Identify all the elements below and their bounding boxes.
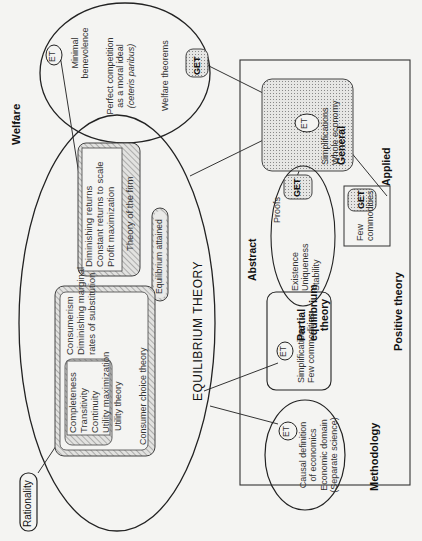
general-et-badge: ET (300, 118, 310, 129)
welfare-text-2: Perfect competition as a moral ideal (ce… (105, 21, 136, 131)
methodology-label: Methodology (368, 423, 381, 491)
welfare-label: Welfare (10, 104, 23, 145)
abstract-items: Existence Uniqueness Stability (290, 243, 321, 291)
diagram-stage: Welfare ET Minimal benevolence Perfect c… (0, 0, 422, 541)
equilibrium-attained: Equilibrium attained (155, 219, 165, 294)
welfare-et-badge: ET (48, 51, 58, 62)
partial-equilibrium-title: Partial equilibrium theory (296, 284, 331, 341)
applied-label: Applied (380, 148, 392, 187)
welfare-text-1: Minimal benevolence (70, 13, 91, 93)
general-equilibrium-title: General (336, 126, 347, 165)
equilibrium-theory-title: EQUILIBRIUM THEORY (192, 261, 206, 401)
diagram-shapes (0, 0, 422, 541)
partial-et-badge: ET (279, 346, 289, 357)
utility-items: Completeness Transitivity Continuity Uti… (68, 352, 112, 433)
positive-theory-label: Positive theory (392, 272, 405, 351)
methodology-text: Causal definition of economics Economic … (298, 405, 339, 505)
applied-get-badge: GET (356, 190, 366, 209)
abstract-get-badge: GET (292, 178, 302, 197)
abstract-label: Abstract (246, 238, 258, 281)
welfare-get-badge: GET (192, 56, 202, 75)
theory-of-firm-title: Theory of the firm (125, 177, 136, 251)
proofs-label: Proofs (272, 197, 282, 223)
consumer-choice-title: Consumer choice theory (138, 347, 148, 445)
firm-items: Diminishing returns Constant returns to … (84, 161, 117, 267)
rationality-label: Rationality (22, 480, 34, 527)
methodology-et-badge: ET (282, 426, 292, 437)
utility-theory-label: Utility theory (113, 381, 123, 431)
consumer-items: Consumerism Diminishing marginal rates o… (65, 267, 98, 355)
welfare-theorems: Welfare theorems (160, 40, 170, 111)
